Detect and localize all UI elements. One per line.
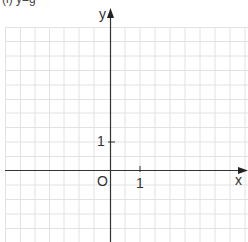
x-tick-label: 1 [136, 175, 144, 191]
y-tick-label: 1 [97, 133, 105, 149]
origin-label: O [97, 173, 108, 189]
x-axis-label: x [235, 172, 242, 188]
y-axis-label: y [99, 6, 106, 22]
y-axis-arrow-icon [107, 8, 114, 18]
coordinate-plane [0, 0, 248, 242]
grid [5, 27, 248, 242]
